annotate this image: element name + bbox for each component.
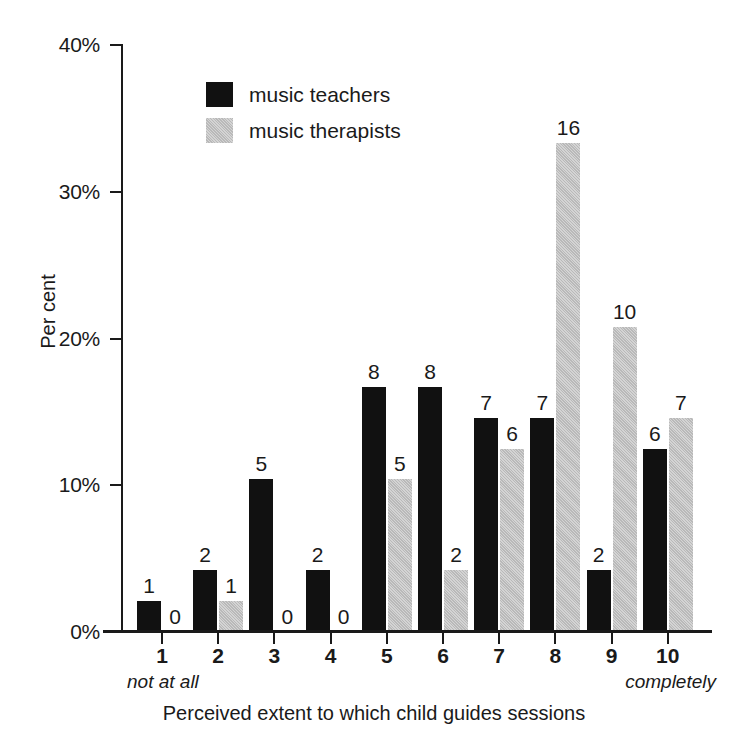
x-axis-tick-label: 8 xyxy=(532,645,578,666)
bar-chart: 0%10%20%30%40% Per cent 1252887726010052… xyxy=(0,0,748,739)
bar-value-label: 2 xyxy=(436,544,476,565)
x-axis-tick xyxy=(330,633,332,644)
x-axis-tick-label: 3 xyxy=(251,645,297,666)
x-axis-tick xyxy=(442,633,444,644)
x-endpoint-label-right: completely xyxy=(625,672,716,691)
x-axis-tick-label: 10 xyxy=(645,645,691,666)
x-axis-tick xyxy=(386,633,388,644)
x-axis-tick xyxy=(498,633,500,644)
chart-legend: music teachersmusic therapists xyxy=(206,76,401,148)
bar-value-label: 6 xyxy=(635,423,675,444)
y-axis-tick xyxy=(110,338,122,340)
x-axis-tick-label: 1 xyxy=(139,645,185,666)
x-axis-tick-label: 6 xyxy=(420,645,466,666)
bar-value-label: 7 xyxy=(522,392,562,413)
y-axis-tick-label: 40% xyxy=(38,34,100,55)
bar-value-label: 2 xyxy=(185,544,225,565)
legend-label: music teachers xyxy=(249,84,390,105)
bar-value-label: 0 xyxy=(324,606,364,627)
x-axis-tick-label: 2 xyxy=(195,645,241,666)
bar-therapists-5 xyxy=(388,479,412,632)
bar-value-label: 0 xyxy=(155,606,195,627)
bar-teachers-2 xyxy=(193,570,217,632)
bar-therapists-8 xyxy=(556,143,580,632)
x-axis-tick xyxy=(667,633,669,644)
legend-swatch-therapists xyxy=(206,118,233,143)
x-axis-tick xyxy=(217,633,219,644)
bar-teachers-5 xyxy=(362,387,386,632)
x-axis-line xyxy=(103,630,712,633)
x-axis-tick xyxy=(161,633,163,644)
bar-value-label: 8 xyxy=(410,361,450,382)
legend-item-teachers: music teachers xyxy=(206,76,401,112)
bar-teachers-7 xyxy=(474,418,498,632)
bar-teachers-9 xyxy=(587,570,611,632)
bar-teachers-6 xyxy=(418,387,442,632)
bar-value-label: 1 xyxy=(211,575,251,596)
bar-value-label: 5 xyxy=(380,453,420,474)
x-axis-tick-label: 7 xyxy=(476,645,522,666)
bar-therapists-6 xyxy=(444,570,468,632)
bar-teachers-10 xyxy=(643,449,667,632)
x-axis-tick xyxy=(273,633,275,644)
x-axis-tick xyxy=(611,633,613,644)
bar-therapists-2 xyxy=(219,601,243,632)
bar-therapists-7 xyxy=(500,449,524,632)
y-axis-tick-label: 30% xyxy=(38,181,100,202)
y-axis-title: Per cent xyxy=(37,252,60,372)
y-axis-tick xyxy=(110,484,122,486)
legend-swatch-teachers xyxy=(206,82,233,107)
bar-value-label: 6 xyxy=(492,423,532,444)
y-axis-tick xyxy=(110,44,122,46)
x-axis-title: Perceived extent to which child guides s… xyxy=(0,703,748,723)
bar-value-label: 7 xyxy=(661,392,701,413)
x-axis-tick-label: 9 xyxy=(589,645,635,666)
bar-value-label: 5 xyxy=(241,453,281,474)
bar-value-label: 1 xyxy=(129,575,169,596)
x-axis-tick-label: 4 xyxy=(308,645,354,666)
bar-value-label: 8 xyxy=(354,361,394,382)
bar-value-label: 10 xyxy=(605,301,645,322)
x-endpoint-label-left: not at all xyxy=(127,672,199,691)
bar-value-label: 2 xyxy=(298,544,338,565)
y-axis-tick-label: 10% xyxy=(38,474,100,495)
x-axis-tick-label: 5 xyxy=(364,645,410,666)
bar-teachers-4 xyxy=(306,570,330,632)
legend-item-therapists: music therapists xyxy=(206,112,401,148)
legend-label: music therapists xyxy=(249,120,401,141)
bar-value-label: 16 xyxy=(548,117,588,138)
bar-value-label: 7 xyxy=(466,392,506,413)
bar-value-label: 0 xyxy=(267,606,307,627)
y-axis-tick xyxy=(110,191,122,193)
bar-value-label: 2 xyxy=(579,544,619,565)
bar-therapists-10 xyxy=(669,418,693,632)
x-axis-tick xyxy=(554,633,556,644)
bar-therapists-9 xyxy=(613,327,637,632)
bar-teachers-8 xyxy=(530,418,554,632)
bar-teachers-1 xyxy=(137,601,161,632)
y-axis-tick-label: 0% xyxy=(38,621,100,642)
bar-teachers-3 xyxy=(249,479,273,632)
